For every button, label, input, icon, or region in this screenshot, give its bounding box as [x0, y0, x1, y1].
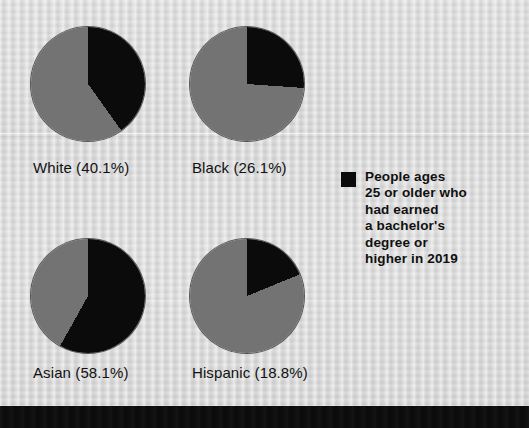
pie-asian	[31, 239, 145, 353]
legend-line-4: a bachelor's	[365, 218, 467, 234]
pie-chart-figure: White (40.1%) Black (26.1%) Asian (58.1%…	[0, 0, 529, 428]
bottom-black-bar	[0, 406, 529, 428]
pie-label-asian: Asian (58.1%)	[33, 364, 129, 381]
legend-line-6: higher in 2019	[365, 251, 467, 267]
pie-black	[190, 27, 304, 141]
legend-line-3: had earned	[365, 202, 467, 218]
pie-label-black: Black (26.1%)	[192, 159, 287, 176]
legend-line-5: degree or	[365, 235, 467, 251]
legend-swatch-black-icon	[341, 172, 356, 187]
legend-line-2: 25 or older who	[365, 185, 467, 201]
pie-hispanic	[190, 239, 304, 353]
legend-label: People ages25 or older whohad earneda ba…	[365, 169, 467, 267]
bottom-bar-texture	[0, 406, 529, 428]
pie-label-hispanic: Hispanic (18.8%)	[192, 364, 308, 381]
pie-label-white: White (40.1%)	[33, 159, 129, 176]
legend-line-1: People ages	[365, 169, 467, 185]
pie-white	[31, 27, 145, 141]
